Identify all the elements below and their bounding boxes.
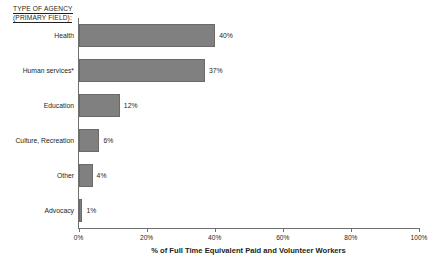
x-axis-tick-mark (351, 228, 352, 232)
bar-value-label: 12% (124, 102, 138, 109)
bar (79, 129, 99, 152)
x-axis-tick-mark (419, 228, 420, 232)
bar (79, 164, 93, 187)
category-label: Other (0, 172, 74, 179)
category-label: Education (0, 102, 74, 109)
bar-value-label: 1% (86, 207, 96, 214)
x-axis-tick-label: 100% (411, 234, 428, 241)
x-axis-tick-mark (79, 228, 80, 232)
bar-value-label: 4% (97, 172, 107, 179)
category-label: Culture, Recreation (0, 137, 74, 144)
bar-value-label: 37% (209, 67, 223, 74)
bar (79, 199, 82, 222)
y-axis-line (78, 18, 79, 229)
plot-area: 0%20%40%60%80%100% Health40%Human servic… (0, 0, 432, 267)
bar-chart: TYPE OF AGENCY (PRIMARY FIELD): 0%20%40%… (0, 0, 432, 267)
bar (79, 24, 215, 47)
bar (79, 59, 205, 82)
x-axis-tick-label: 60% (276, 234, 289, 241)
x-axis-tick-label: 20% (140, 234, 153, 241)
x-axis-tick-mark (147, 228, 148, 232)
x-axis-tick-mark (215, 228, 216, 232)
bar-value-label: 40% (219, 32, 233, 39)
x-axis-tick-label: 40% (208, 234, 221, 241)
x-axis-tick-label: 80% (344, 234, 357, 241)
x-axis-tick-mark (283, 228, 284, 232)
x-axis-line (78, 228, 419, 229)
bar-value-label: 6% (103, 137, 113, 144)
x-axis-tick-label: 0% (74, 234, 84, 241)
bar (79, 94, 120, 117)
category-label: Human services* (0, 67, 74, 74)
category-label: Advocacy (0, 207, 74, 214)
x-axis-title: % of Full Time Equivalent Paid and Volun… (78, 246, 419, 255)
category-label: Health (0, 32, 74, 39)
